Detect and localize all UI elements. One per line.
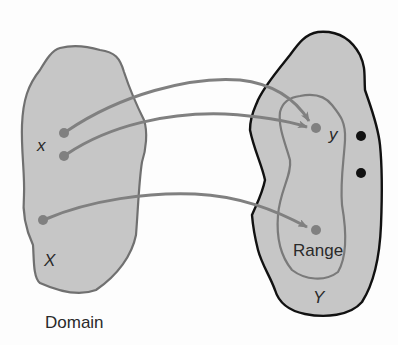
range-point-2: [311, 225, 321, 235]
range-label: Range: [293, 241, 343, 260]
domain-element-label: x: [36, 136, 46, 155]
codomain-set-label: Y: [313, 288, 326, 307]
range-point-y: [311, 123, 321, 133]
domain-set-label: X: [43, 251, 56, 270]
domain-point-x1: [59, 128, 69, 138]
domain-caption: Domain: [45, 313, 104, 332]
diagram-canvas: x X Domain y Range Y: [0, 0, 398, 345]
function-mapping-diagram: x X Domain y Range Y: [0, 0, 398, 345]
codomain-element-label: y: [328, 125, 339, 144]
codomain-point-unmapped-2: [356, 168, 366, 178]
codomain-point-unmapped-1: [356, 131, 366, 141]
domain-point-x2: [59, 151, 69, 161]
domain-set-x: [22, 46, 146, 293]
domain-point-3: [38, 215, 48, 225]
